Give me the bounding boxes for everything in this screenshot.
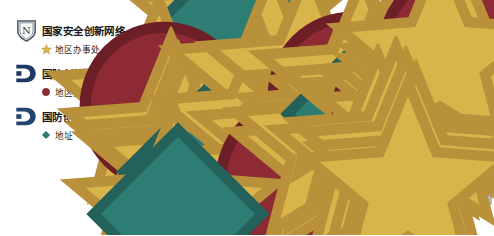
map-marker-layer <box>140 6 492 231</box>
map-infographic: N 国家安全创新网络 地区办事处 <box>0 0 494 235</box>
marker-hawaii-diamond <box>2 102 354 236</box>
united-states-map <box>140 6 492 231</box>
